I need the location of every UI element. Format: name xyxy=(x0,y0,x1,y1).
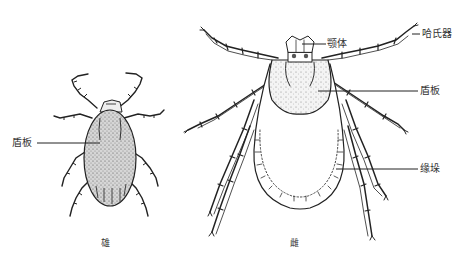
female-caption: 雌 xyxy=(290,237,299,249)
female-scutum-label: 盾板 xyxy=(420,85,440,97)
male-caption: 雄 xyxy=(101,237,110,249)
male-tick xyxy=(54,73,164,216)
male-scutum xyxy=(84,110,136,206)
capitulum-label: 颚体 xyxy=(327,38,347,50)
tick-illustration xyxy=(0,0,464,263)
tick-diagram: 盾板 颚体 哈氏器 盾板 缘垛 雄 雌 xyxy=(0,0,464,263)
hallers-organ-label: 哈氏器 xyxy=(422,28,452,40)
festoon-label: 缘垛 xyxy=(420,163,440,175)
female-scutum xyxy=(269,60,331,114)
female-tick xyxy=(184,23,418,240)
male-scutum-label: 盾板 xyxy=(12,137,32,149)
